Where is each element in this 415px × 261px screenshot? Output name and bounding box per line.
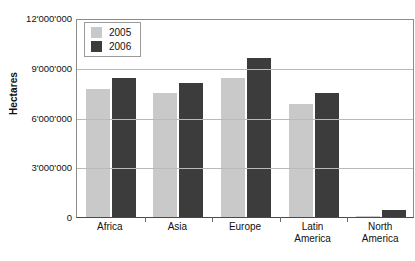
gridline [77,69,413,70]
y-tick-label: 6'000'000 [2,114,72,124]
legend-swatch-2005-icon [91,27,102,38]
bar-africa-2006 [112,78,136,217]
y-tick-label: 3'000'000 [2,163,72,173]
bar-latin-america-2006 [315,93,339,217]
legend-swatch-2006-icon [91,41,102,52]
chart-legend: 2005 2006 [84,22,141,57]
legend-item-2006: 2006 [91,41,131,52]
bar-europe-2006 [247,58,271,217]
legend-item-2005: 2005 [91,27,131,38]
legend-label-2006: 2006 [109,41,131,52]
bar-asia-2006 [179,83,203,217]
bar-europe-2005 [221,78,245,217]
gridline [77,168,413,169]
y-tick-label: 12'000'000 [2,14,72,24]
bar-north-america-2006 [382,210,406,217]
bar-africa-2005 [86,89,110,217]
gridline [77,119,413,120]
bar-latin-america-2005 [289,104,313,217]
bar-north-america-2005 [356,216,380,217]
y-tick-label: 9'000'000 [2,64,72,74]
x-axis-label-north-america: NorthAmerica [340,221,415,245]
legend-label-2005: 2005 [109,27,131,38]
bar-chart: Hectares 03'000'0006'000'0009'000'00012'… [0,0,415,261]
y-tick-label: 0 [2,213,72,223]
y-axis-tick-labels: 03'000'0006'000'0009'000'00012'000'000 [0,0,72,261]
bar-asia-2005 [153,93,177,217]
x-axis-labels: AfricaAsiaEuropeLatinAmericaNorthAmerica [76,221,414,259]
